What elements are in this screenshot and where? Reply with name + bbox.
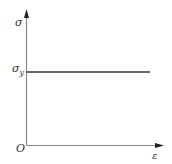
yield-stress-subscript: y [20,68,25,77]
yield-stress-symbol: σ [12,62,20,75]
x-axis-label: ε [152,151,157,161]
origin-label: O [16,143,25,154]
y-axis-arrow-icon [24,9,29,18]
yield-stress-label: σy [12,63,24,74]
stress-strain-plot [0,0,172,164]
x-axis-arrow-icon [155,143,164,148]
y-axis-label: σ [15,17,23,28]
